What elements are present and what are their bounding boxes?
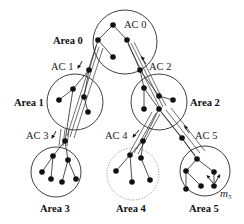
ac4-label: AC 4 [105,130,128,141]
node [141,85,147,91]
ac2-arrow-icon [141,56,146,64]
ac3-gateway-node [62,138,68,144]
node [170,97,176,103]
node [56,97,62,103]
node [211,169,217,175]
node [124,37,130,43]
ac4-gateway-node [140,138,146,144]
mobile-node-m5 [211,183,217,189]
area-5-label: Area 5 [189,203,219,214]
ac3-label: AC 3 [26,130,48,141]
area-0-label: Area 0 [53,35,83,46]
node [50,153,56,159]
node [81,94,87,100]
area-1-label: Area 1 [14,97,44,108]
area-3-circle [31,147,81,197]
ac1-label: AC 1 [51,61,73,72]
node [194,156,200,162]
node [198,183,204,189]
node [183,168,189,174]
mobile-node-label: m5 [220,187,232,201]
node [113,168,119,174]
node [138,155,144,161]
area-2-circle [131,74,187,130]
node [129,179,135,185]
area-2-nodes [141,85,176,112]
ac1-arrow-icon [78,61,83,69]
area-0-tree [89,25,140,70]
ac3-arrow-icon [52,131,57,139]
node [39,169,45,175]
area-hierarchy-diagram: Area 0 Area 1 Area 2 Area 3 Area 4 Area … [0,0,244,224]
node [127,152,133,158]
ac2-label: AC 2 [149,61,171,72]
ac5-gateway-node [179,135,185,141]
node [70,86,76,92]
node [183,186,189,192]
node [147,177,153,183]
ac5-arrow-icon [184,125,189,133]
node [48,176,54,182]
node [73,176,79,182]
node [85,109,91,115]
ac0-label: AC 0 [124,19,146,30]
area-4-circle [107,148,159,200]
node [156,106,162,112]
ac5-label: AC 5 [195,130,217,141]
mobile-node-movement-arrows-icon [207,174,221,183]
node [110,22,116,28]
ac2-gateway-node [137,67,143,73]
node [65,157,71,163]
area-2-label: Area 2 [190,97,220,108]
area-3-nodes [39,153,79,185]
node [95,37,101,43]
area-4-label: Area 4 [116,203,147,214]
node [141,106,147,112]
area-4-nodes [113,152,153,185]
area-5-tree [182,138,214,189]
node [59,179,65,185]
node [110,54,116,60]
ac1-gateway-node [86,67,92,73]
area-3-label: Area 3 [40,203,70,214]
node [156,93,162,99]
